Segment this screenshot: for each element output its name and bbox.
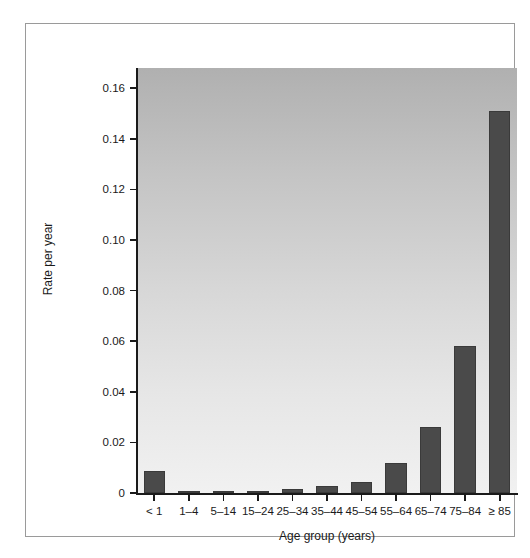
y-tick-mark bbox=[130, 442, 137, 444]
x-tick-mark bbox=[153, 494, 155, 501]
y-tick-label: 0 bbox=[119, 485, 125, 501]
x-axis-title: Age group (years) bbox=[136, 529, 518, 543]
y-tick-mark bbox=[130, 189, 137, 191]
x-tick-mark bbox=[499, 494, 501, 501]
bar bbox=[420, 427, 441, 493]
bar bbox=[351, 482, 372, 493]
y-tick-mark bbox=[130, 391, 137, 393]
y-tick-label: 0.12 bbox=[103, 181, 125, 197]
x-tick-mark bbox=[430, 494, 432, 501]
bar bbox=[316, 486, 337, 493]
y-tick-label: 0.08 bbox=[103, 283, 125, 299]
y-tick-mark bbox=[130, 492, 137, 494]
bar bbox=[144, 471, 165, 493]
y-axis-line bbox=[136, 68, 138, 494]
y-tick-mark bbox=[130, 138, 137, 140]
x-tick-label: ≥ 85 bbox=[460, 505, 530, 517]
y-tick-label: 0.16 bbox=[103, 80, 125, 96]
x-tick-mark bbox=[257, 494, 259, 501]
bar bbox=[385, 463, 406, 493]
y-tick-label: 0.10 bbox=[103, 232, 125, 248]
y-tick-label: 0.14 bbox=[103, 131, 125, 147]
x-tick-mark bbox=[464, 494, 466, 501]
x-tick-mark bbox=[223, 494, 225, 501]
x-tick-mark bbox=[326, 494, 328, 501]
y-tick-label: 0.04 bbox=[103, 384, 125, 400]
bar bbox=[454, 346, 475, 493]
x-tick-mark bbox=[395, 494, 397, 501]
y-tick-mark bbox=[130, 239, 137, 241]
x-tick-mark bbox=[361, 494, 363, 501]
y-axis-title: Rate per year bbox=[41, 169, 55, 349]
y-tick-mark bbox=[130, 290, 137, 292]
y-tick-label: 0.06 bbox=[103, 333, 125, 349]
y-tick-mark bbox=[130, 340, 137, 342]
plot-area bbox=[137, 68, 517, 493]
bar bbox=[489, 111, 510, 493]
x-tick-mark bbox=[188, 494, 190, 501]
figure-frame: 00.020.040.060.080.100.120.140.16 < 11–4… bbox=[25, 23, 515, 537]
y-tick-mark bbox=[130, 87, 137, 89]
y-tick-label: 0.02 bbox=[103, 434, 125, 450]
x-tick-mark bbox=[292, 494, 294, 501]
